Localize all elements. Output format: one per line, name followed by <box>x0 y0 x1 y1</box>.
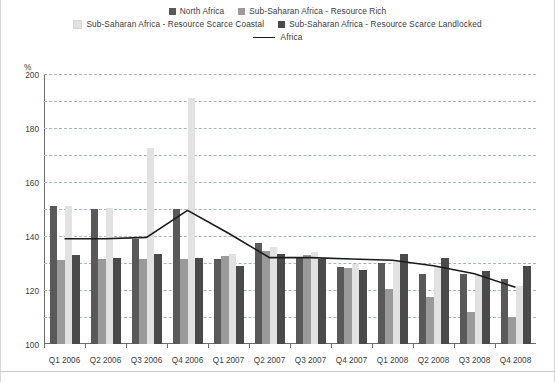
bar <box>303 255 311 344</box>
square-swatch-icon <box>278 21 285 28</box>
legend-item[interactable]: Sub-Saharan Africa - Resource Scarce Coa… <box>73 19 264 29</box>
x-axis-tick <box>208 344 209 348</box>
x-axis-tick-label: Q3 2006 <box>126 356 167 365</box>
bar-groups <box>44 74 536 344</box>
bar-group <box>372 74 413 344</box>
bar-group <box>44 74 85 344</box>
bar <box>57 260 65 344</box>
x-axis-tick <box>44 344 45 348</box>
line-swatch-icon <box>253 37 275 38</box>
bar <box>460 274 468 344</box>
bar <box>385 289 393 344</box>
bar <box>352 264 360 344</box>
x-axis-tick <box>413 344 414 348</box>
bar <box>188 98 196 344</box>
bar <box>318 259 326 344</box>
legend-item-label: Africa <box>281 32 303 42</box>
bar <box>154 254 162 344</box>
bar <box>72 255 80 344</box>
x-axis-tick <box>126 344 127 348</box>
square-swatch-icon <box>169 8 176 15</box>
legend-item-label: Sub-Saharan Africa - Resource Scarce Lan… <box>289 19 481 29</box>
bar-group <box>413 74 454 344</box>
legend-item[interactable]: Sub-Saharan Africa - Resource Scarce Lan… <box>278 19 481 29</box>
footer-divider <box>0 371 555 372</box>
x-axis-tick-label: Q3 2007 <box>290 356 331 365</box>
x-axis-tick <box>167 344 168 348</box>
square-swatch-icon <box>238 8 245 15</box>
bar <box>419 274 427 344</box>
x-axis-tick-label: Q2 2006 <box>85 356 126 365</box>
x-axis-tick <box>454 344 455 348</box>
bar <box>344 268 352 344</box>
x-axis-tick <box>495 344 496 348</box>
legend-row: North AfricaSub-Saharan Africa - Resourc… <box>169 6 387 16</box>
bar <box>132 239 140 344</box>
bar <box>236 266 244 344</box>
y-axis-tick-label: 100 <box>25 340 39 350</box>
legend-row: Sub-Saharan Africa - Resource Scarce Coa… <box>73 19 481 29</box>
bar-group <box>454 74 495 344</box>
bar <box>65 206 73 344</box>
bar-group <box>208 74 249 344</box>
bar <box>91 209 99 344</box>
bar <box>467 312 475 344</box>
legend-item[interactable]: Sub-Saharan Africa - Resource Rich <box>238 6 386 16</box>
bar-group <box>290 74 331 344</box>
bar-group <box>85 74 126 344</box>
chart-legend: North AfricaSub-Saharan Africa - Resourc… <box>0 6 555 42</box>
legend-item-label: Sub-Saharan Africa - Resource Rich <box>249 6 386 16</box>
bar <box>311 252 319 344</box>
bar <box>523 266 531 344</box>
y-axis-tick-label: 200 <box>25 70 39 80</box>
x-axis-tick-label: Q2 2007 <box>249 356 290 365</box>
bar <box>482 271 490 344</box>
bar <box>508 317 516 344</box>
bar <box>229 254 237 344</box>
x-axis-tick-label: Q2 2008 <box>413 356 454 365</box>
bar <box>147 148 155 344</box>
y-axis-tick-label: 180 <box>25 124 39 134</box>
y-axis-tick-label: 160 <box>25 178 39 188</box>
bar <box>50 206 58 344</box>
legend-item[interactable]: Africa <box>253 32 303 42</box>
x-axis-tick <box>372 344 373 348</box>
legend-item-label: Sub-Saharan Africa - Resource Scarce Coa… <box>86 19 264 29</box>
bar <box>270 247 278 344</box>
bar <box>113 258 121 344</box>
x-axis-tick-label: Q4 2007 <box>331 356 372 365</box>
bar <box>173 209 181 344</box>
legend-row: Africa <box>253 32 303 42</box>
bar <box>277 254 285 344</box>
bar <box>296 258 304 344</box>
x-axis-tick-label: Q1 2006 <box>44 356 85 365</box>
x-axis-tick-label: Q1 2008 <box>372 356 413 365</box>
bar <box>475 275 483 344</box>
plot-area: % 020406080100120140160180200 Q1 2006Q2 … <box>0 62 555 352</box>
bar-group <box>249 74 290 344</box>
y-axis-tick-label: 140 <box>25 232 39 242</box>
bar <box>434 266 442 344</box>
bar <box>262 251 270 344</box>
x-axis-tick-label: Q3 2008 <box>454 356 495 365</box>
x-axis-tick-label: Q1 2007 <box>208 356 249 365</box>
x-axis-tick <box>249 344 250 348</box>
bar <box>393 262 401 344</box>
bar <box>378 263 386 344</box>
bar-group <box>331 74 372 344</box>
bar <box>337 267 345 344</box>
bar <box>359 270 367 344</box>
bar <box>255 243 263 344</box>
x-axis-tick <box>331 344 332 348</box>
bar <box>214 259 222 344</box>
x-axis-tick <box>85 344 86 348</box>
bar <box>221 256 229 344</box>
square-swatch-icon <box>73 20 82 29</box>
bar-group <box>167 74 208 344</box>
x-axis-labels: Q1 2006Q2 2006Q3 2006Q4 2006Q1 2007Q2 20… <box>44 356 536 365</box>
bar <box>98 259 106 344</box>
x-axis-tick-label: Q4 2008 <box>495 356 536 365</box>
x-axis-tick-label: Q4 2006 <box>167 356 208 365</box>
axis-area: 020406080100120140160180200 <box>44 74 536 344</box>
legend-item[interactable]: North Africa <box>169 6 225 16</box>
